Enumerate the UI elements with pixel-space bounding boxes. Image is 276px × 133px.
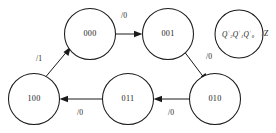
state-diagram-svg: 000 001 010 011 100 Q+2Q+1Q+0 /Z /0 /0 /…	[0, 0, 276, 133]
state-diagram-canvas: 000 001 010 011 100 Q+2Q+1Q+0 /Z /0 /0 /…	[0, 0, 276, 133]
arrowhead-000-001	[134, 31, 143, 37]
state-label-000: 000	[83, 29, 96, 38]
legend-output-notation: /Z	[261, 29, 269, 38]
edge-label-011-100: /0	[77, 108, 83, 117]
edge-010-to-011	[154, 96, 190, 102]
edge-011-to-100	[60, 96, 103, 102]
state-node-100[interactable]: 100	[9, 74, 60, 125]
arrowhead-010-011	[154, 96, 163, 102]
state-label-011: 011	[122, 94, 135, 103]
state-label-001: 001	[161, 29, 174, 38]
state-node-010[interactable]: 010	[190, 74, 241, 125]
edge-line-001-010	[185, 53, 204, 78]
state-label-010: 010	[208, 94, 221, 103]
edge-label-100-000: /1	[36, 54, 42, 63]
state-node-001[interactable]: 001	[143, 9, 194, 60]
edge-label-001-010: /0	[206, 52, 212, 61]
edge-line-100-000	[46, 52, 67, 77]
edge-label-000-001: /0	[121, 11, 127, 20]
state-node-000[interactable]: 000	[65, 9, 116, 60]
legend-node: Q+2Q+1Q+0 /Z	[215, 10, 269, 58]
edge-100-to-000	[46, 47, 71, 77]
state-label-100: 100	[27, 94, 40, 103]
edge-label-010-011: /0	[168, 108, 174, 117]
arrowhead-011-100	[60, 96, 69, 102]
edge-000-to-001	[116, 31, 143, 37]
state-node-011[interactable]: 011	[103, 74, 154, 125]
